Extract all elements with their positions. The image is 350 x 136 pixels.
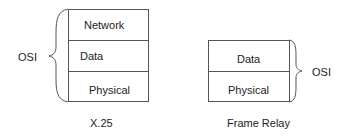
osi-label-left: OSI	[18, 51, 37, 63]
layer-data: Data	[209, 41, 289, 72]
brace-left-icon	[46, 9, 70, 102]
x25-layer-stack: Network Data Physical	[68, 9, 149, 102]
layer-label: Data	[80, 51, 103, 62]
caption-frame-relay: Frame Relay	[227, 117, 290, 129]
layer-label: Network	[84, 20, 124, 31]
layer-data: Data	[69, 41, 148, 72]
layer-physical: Physical	[69, 72, 148, 102]
layer-label: Physical	[228, 85, 269, 96]
layer-network: Network	[69, 10, 148, 41]
layer-physical: Physical	[209, 72, 289, 102]
caption-x25: X.25	[90, 117, 113, 129]
layer-label: Data	[237, 54, 260, 65]
osi-label-right: OSI	[312, 66, 331, 78]
layer-label: Physical	[89, 85, 130, 96]
frame-relay-layer-stack: Data Physical	[208, 40, 290, 102]
brace-right-icon	[289, 40, 305, 102]
